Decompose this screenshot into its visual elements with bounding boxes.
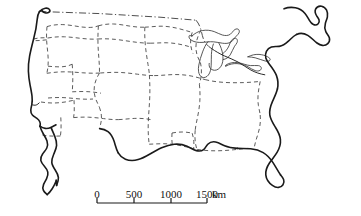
us-outline-map-figure: 0 500 1000 1500 km [0, 0, 361, 216]
scale-unit-label: km [212, 188, 227, 200]
scale-tick-label-0: 0 [94, 188, 100, 200]
scale-tick-label-500: 500 [126, 188, 143, 200]
scale-tick-label-1000: 1000 [160, 188, 183, 200]
map-canvas: 0 500 1000 1500 km [0, 0, 361, 216]
